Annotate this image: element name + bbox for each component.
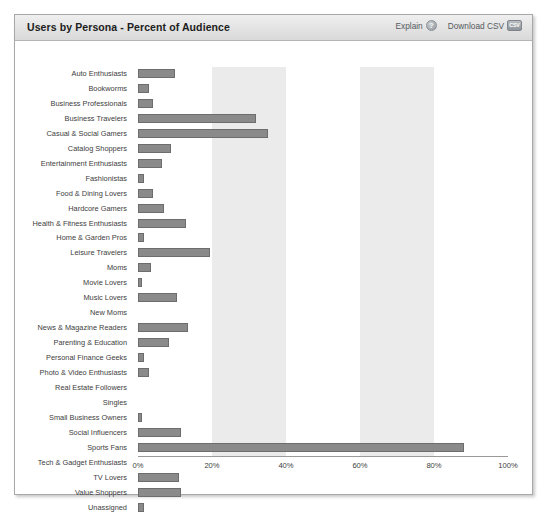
chart-panel: Users by Persona - Percent of Audience E… bbox=[14, 14, 533, 495]
bar-row bbox=[138, 217, 508, 232]
bar[interactable] bbox=[138, 323, 188, 332]
bar[interactable] bbox=[138, 488, 181, 497]
category-label: Small Business Owners bbox=[15, 411, 132, 426]
category-label: News & Magazine Readers bbox=[15, 321, 132, 336]
bar-rows bbox=[138, 67, 508, 456]
bar[interactable] bbox=[138, 263, 151, 272]
category-label: Unassigned bbox=[15, 501, 132, 513]
category-label: Health & Fitness Enthusiasts bbox=[15, 217, 132, 232]
bar[interactable] bbox=[138, 144, 171, 153]
category-label: Home & Garden Pros bbox=[15, 231, 132, 246]
bar[interactable] bbox=[138, 204, 164, 213]
x-axis-tick: 60% bbox=[352, 461, 367, 470]
bar-row bbox=[138, 261, 508, 276]
category-label: Value Shoppers bbox=[15, 486, 132, 501]
category-label: Parenting & Education bbox=[15, 336, 132, 351]
bar[interactable] bbox=[138, 219, 186, 228]
bar-row bbox=[138, 142, 508, 157]
bar-row bbox=[138, 82, 508, 97]
bar-row bbox=[138, 426, 508, 441]
bar-row bbox=[138, 501, 508, 513]
value-axis: 0%20%40%60%80%100% bbox=[138, 456, 508, 474]
csv-file-icon[interactable] bbox=[507, 20, 522, 31]
category-label: Auto Enthusiasts bbox=[15, 67, 132, 82]
panel-header: Users by Persona - Percent of Audience E… bbox=[15, 15, 532, 41]
bar-row bbox=[138, 366, 508, 381]
bar-row bbox=[138, 441, 508, 456]
category-label: Real Estate Followers bbox=[15, 381, 132, 396]
category-label: New Moms bbox=[15, 306, 132, 321]
bar[interactable] bbox=[138, 428, 181, 437]
bar[interactable] bbox=[138, 473, 179, 482]
explain-label: Explain bbox=[396, 21, 423, 31]
bar[interactable] bbox=[138, 368, 149, 377]
bar-row bbox=[138, 112, 508, 127]
bar-row bbox=[138, 67, 508, 82]
bar-row bbox=[138, 172, 508, 187]
bar[interactable] bbox=[138, 278, 142, 287]
bar-row bbox=[138, 276, 508, 291]
bar[interactable] bbox=[138, 443, 464, 452]
x-axis-tick: 100% bbox=[498, 461, 517, 470]
category-label: Music Lovers bbox=[15, 291, 132, 306]
category-label: Leisure Travelers bbox=[15, 246, 132, 261]
bar-row bbox=[138, 306, 508, 321]
bar-row bbox=[138, 336, 508, 351]
download-csv-label: Download CSV bbox=[448, 21, 504, 31]
bar-row bbox=[138, 351, 508, 366]
bar[interactable] bbox=[138, 84, 149, 93]
bar[interactable] bbox=[138, 233, 144, 242]
page-title: Users by Persona - Percent of Audience bbox=[27, 21, 230, 33]
category-label: Casual & Social Gamers bbox=[15, 127, 132, 142]
x-axis-tick: 0% bbox=[133, 461, 144, 470]
category-label: Hardcore Gamers bbox=[15, 202, 132, 217]
category-label: Business Professionals bbox=[15, 97, 132, 112]
bar[interactable] bbox=[138, 338, 169, 347]
x-axis-tick: 20% bbox=[204, 461, 219, 470]
bar[interactable] bbox=[138, 293, 177, 302]
bar[interactable] bbox=[138, 174, 144, 183]
download-csv-button[interactable]: Download CSV bbox=[448, 20, 522, 31]
category-label: TV Lovers bbox=[15, 471, 132, 486]
chart-body: Auto EnthusiastsBookwormsBusiness Profes… bbox=[15, 41, 532, 494]
bar[interactable] bbox=[138, 114, 256, 123]
bar-row bbox=[138, 291, 508, 306]
help-circle-icon[interactable] bbox=[426, 20, 437, 31]
category-label: Food & Dining Lovers bbox=[15, 187, 132, 202]
x-axis-tick: 40% bbox=[278, 461, 293, 470]
category-axis-labels: Auto EnthusiastsBookwormsBusiness Profes… bbox=[15, 67, 132, 456]
bar-row bbox=[138, 187, 508, 202]
bar-row bbox=[138, 321, 508, 336]
plot-area bbox=[138, 67, 508, 456]
category-label: Social Influencers bbox=[15, 426, 132, 441]
bar[interactable] bbox=[138, 159, 162, 168]
bar[interactable] bbox=[138, 503, 144, 512]
bar-row bbox=[138, 127, 508, 142]
bar[interactable] bbox=[138, 248, 210, 257]
axis-line bbox=[138, 456, 508, 457]
bar-row bbox=[138, 486, 508, 501]
bar[interactable] bbox=[138, 413, 142, 422]
category-label: Singles bbox=[15, 396, 132, 411]
header-actions: Explain Download CSV bbox=[396, 20, 522, 31]
category-label: Business Travelers bbox=[15, 112, 132, 127]
category-label: Catalog Shoppers bbox=[15, 142, 132, 157]
bar[interactable] bbox=[138, 189, 153, 198]
category-label: Movie Lovers bbox=[15, 276, 132, 291]
category-label: Moms bbox=[15, 261, 132, 276]
category-label: Fashionistas bbox=[15, 172, 132, 187]
bar-row bbox=[138, 411, 508, 426]
explain-button[interactable]: Explain bbox=[396, 20, 437, 31]
bar[interactable] bbox=[138, 353, 144, 362]
bar-row bbox=[138, 396, 508, 411]
bar[interactable] bbox=[138, 99, 153, 108]
bar-row bbox=[138, 157, 508, 172]
category-label: Bookworms bbox=[15, 82, 132, 97]
bar-row bbox=[138, 231, 508, 246]
bar-row bbox=[138, 381, 508, 396]
category-label: Entertainment Enthusiasts bbox=[15, 157, 132, 172]
bar[interactable] bbox=[138, 129, 268, 138]
bar-row bbox=[138, 202, 508, 217]
bar[interactable] bbox=[138, 69, 175, 78]
category-label: Photo & Video Enthusiasts bbox=[15, 366, 132, 381]
